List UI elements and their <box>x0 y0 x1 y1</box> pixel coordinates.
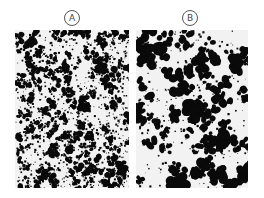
panel-a-label: A <box>64 10 80 26</box>
panel-b-image <box>136 30 248 188</box>
panel-a-image <box>15 30 129 188</box>
panel-b-label: B <box>182 10 198 26</box>
